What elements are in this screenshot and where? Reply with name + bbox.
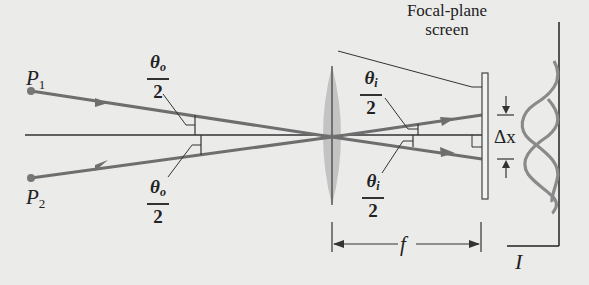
screen-title-line1: Focal-plane	[392, 1, 502, 20]
angle-label-object-top: θo 2	[147, 52, 169, 101]
point-p2	[27, 174, 35, 182]
screen-leader	[338, 51, 472, 87]
screen-right-angle	[472, 135, 482, 147]
ray-p1-object	[31, 91, 332, 137]
angle-label-object-bottom: θo 2	[147, 177, 169, 226]
angle-label-image-top: θi 2	[360, 68, 382, 117]
angle-leader	[168, 145, 192, 177]
ray-p2-image	[332, 115, 482, 137]
angle-label-image-bottom: θi 2	[362, 171, 384, 220]
ray-arrow-icon	[95, 98, 108, 107]
arrow-right-icon	[469, 240, 480, 248]
screen-title-line2: screen	[392, 20, 502, 39]
screen-title: Focal-plane screen	[392, 1, 502, 39]
focal-plane-screen	[482, 73, 488, 199]
label-p2: P2	[26, 185, 45, 212]
arrow-down-icon	[502, 106, 510, 114]
delta-x-label: Δx	[494, 127, 516, 146]
ray-p2-object	[31, 137, 332, 178]
optics-diagram: Focal-plane screen P1 P2 θo 2 θo 2 θi 2 …	[0, 0, 589, 285]
intensity-curve-2	[525, 99, 558, 213]
focal-length-label: f	[400, 234, 406, 255]
angle-leader	[385, 98, 408, 129]
ray-p1-image	[332, 137, 482, 159]
ray-arrow-icon	[440, 117, 455, 126]
arrow-left-icon	[333, 240, 344, 248]
intensity-label: I	[515, 251, 522, 273]
label-p1: P1	[26, 66, 45, 93]
